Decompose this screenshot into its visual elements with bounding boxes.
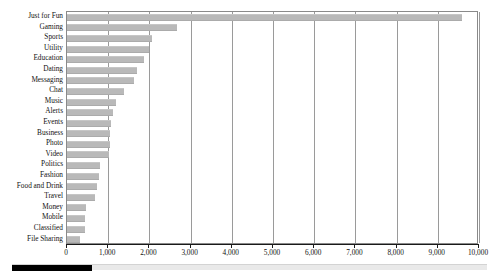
bar — [67, 183, 97, 190]
bar-row — [67, 23, 477, 34]
bar-row — [67, 44, 477, 55]
x-tick-label: 0 — [64, 249, 68, 257]
bar — [67, 67, 137, 74]
category-label: Politics — [0, 160, 63, 168]
category-label: Travel — [0, 192, 63, 200]
category-label: Business — [0, 129, 63, 137]
bar — [67, 204, 86, 211]
bar — [67, 109, 113, 116]
bar — [67, 141, 110, 148]
bar — [67, 215, 85, 222]
gridline-10000 — [479, 12, 480, 243]
bar-row — [67, 171, 477, 182]
bar-row — [67, 160, 477, 171]
bar-row — [67, 33, 477, 44]
bar-chart: Just for FunGamingSportsUtilityEducation… — [0, 0, 493, 272]
category-axis-labels: Just for FunGamingSportsUtilityEducation… — [0, 11, 63, 244]
category-label: Gaming — [0, 23, 63, 31]
bar — [67, 35, 152, 42]
x-tick-label: 2,000 — [140, 249, 156, 257]
category-label: Events — [0, 118, 63, 126]
category-label: Dating — [0, 65, 63, 73]
plot-area — [66, 11, 478, 244]
bar-row — [67, 12, 477, 23]
bars-layer — [67, 12, 477, 243]
bar-row — [67, 107, 477, 118]
category-label: Photo — [0, 139, 63, 147]
x-tick-label: 1,000 — [99, 249, 115, 257]
bar — [67, 236, 80, 243]
x-tick-label: 3,000 — [181, 249, 197, 257]
bar — [67, 120, 111, 127]
category-label: Money — [0, 203, 63, 211]
bar — [67, 226, 85, 233]
bar — [67, 151, 109, 158]
category-label: Alerts — [0, 107, 63, 115]
bar-row — [67, 192, 477, 203]
bar-row — [67, 54, 477, 65]
bar-row — [67, 118, 477, 129]
bar — [67, 88, 124, 95]
bar-row — [67, 129, 477, 140]
x-tick-label: 6,000 — [305, 249, 321, 257]
category-label: Education — [0, 54, 63, 62]
bar — [67, 77, 134, 84]
bar-row — [67, 97, 477, 108]
bar — [67, 14, 462, 21]
bar-row — [67, 86, 477, 97]
category-label: Food and Drink — [0, 182, 63, 190]
x-tick-label: 7,000 — [346, 249, 362, 257]
category-label: Messaging — [0, 76, 63, 84]
bar — [67, 99, 116, 106]
bar-row — [67, 150, 477, 161]
bar — [67, 56, 144, 63]
x-tick-label: 8,000 — [387, 249, 403, 257]
category-label: Chat — [0, 86, 63, 94]
bar — [67, 24, 177, 31]
bar — [67, 194, 95, 201]
bar-row — [67, 76, 477, 87]
bar-row — [67, 139, 477, 150]
category-label: Music — [0, 97, 63, 105]
bar-row — [67, 224, 477, 235]
horizontal-scrollbar[interactable] — [12, 264, 487, 270]
category-label: Sports — [0, 33, 63, 41]
bar — [67, 46, 149, 53]
category-label: Just for Fun — [0, 12, 63, 20]
category-label: Mobile — [0, 213, 63, 221]
category-label: Video — [0, 150, 63, 158]
bar-row — [67, 203, 477, 214]
x-tick-label: 10,000 — [468, 249, 488, 257]
x-tick-label: 4,000 — [223, 249, 239, 257]
bar — [67, 173, 99, 180]
bar-row — [67, 213, 477, 224]
category-label: Fashion — [0, 171, 63, 179]
bar — [67, 162, 100, 169]
bar-row — [67, 181, 477, 192]
bar — [67, 130, 110, 137]
category-label: Classified — [0, 224, 63, 232]
x-tick-label: 9,000 — [429, 249, 445, 257]
category-label: Utility — [0, 44, 63, 52]
x-tick-label: 5,000 — [264, 249, 280, 257]
category-label: File Sharing — [0, 235, 63, 243]
bar-row — [67, 65, 477, 76]
horizontal-scroll-thumb[interactable] — [12, 265, 92, 271]
